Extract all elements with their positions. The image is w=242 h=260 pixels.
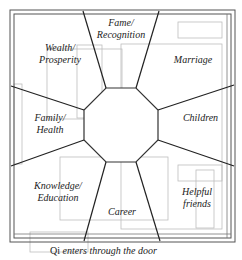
knowledge-line1: Knowledge/ — [28, 180, 88, 192]
wealth-line1: Wealth/ — [30, 42, 90, 54]
area-label-wealth: Wealth/ Prosperity — [30, 42, 90, 66]
area-label-children: Children — [178, 112, 223, 124]
fame-line2: Recognition — [90, 29, 152, 41]
area-label-helpful: Helpful friends — [172, 186, 222, 210]
children-line1: Children — [178, 112, 223, 124]
career-line1: Career — [100, 206, 144, 218]
area-label-family: Family/ Health — [30, 112, 70, 136]
caption-rest: enters through the door — [63, 245, 157, 256]
family-line2: Health — [30, 124, 70, 136]
wealth-line2: Prosperity — [30, 54, 90, 66]
family-line1: Family/ — [30, 112, 70, 124]
knowledge-line2: Education — [28, 192, 88, 204]
area-label-knowledge: Knowledge/ Education — [28, 180, 88, 204]
caption: Qi enters through the door — [50, 245, 157, 256]
marriage-line1: Marriage — [168, 54, 218, 66]
area-label-marriage: Marriage — [168, 54, 218, 66]
fame-line1: Fame/ — [90, 17, 152, 29]
center-octagon — [84, 88, 158, 162]
area-label-career: Career — [100, 206, 144, 218]
helpful-line2: friends — [172, 198, 222, 210]
helpful-line1: Helpful — [172, 186, 222, 198]
caption-prefix: Qi — [50, 245, 63, 256]
area-label-fame: Fame/ Recognition — [90, 17, 152, 41]
